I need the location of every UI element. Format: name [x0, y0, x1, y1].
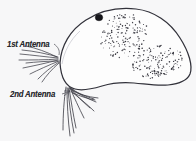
stipple-dot	[158, 55, 159, 56]
stipple-dot	[119, 14, 120, 15]
stipple-dot	[119, 45, 120, 46]
stipple-dot	[121, 50, 122, 51]
stipple-dot	[141, 43, 142, 44]
stipple-dot	[107, 23, 108, 24]
stipple-dot	[126, 30, 127, 31]
stipple-dot	[112, 25, 113, 26]
stipple-dot	[121, 32, 122, 33]
stipple-dot	[143, 54, 144, 55]
stipple-dot	[127, 28, 128, 29]
stipple-dot	[114, 27, 115, 28]
stipple-dot	[160, 74, 161, 75]
stipple-dot	[139, 60, 141, 62]
stipple-dot	[169, 48, 171, 50]
stipple-dot	[139, 69, 140, 70]
stipple-dot	[150, 65, 151, 66]
stipple-dot	[114, 46, 115, 47]
stipple-dot	[129, 42, 130, 43]
stipple-dot	[138, 55, 139, 56]
stipple-dot	[127, 41, 128, 42]
stipple-dot	[142, 31, 143, 32]
stipple-dot	[158, 67, 160, 69]
stipple-dot	[112, 55, 114, 57]
stipple-dot	[114, 19, 115, 20]
stipple-dot	[178, 59, 179, 60]
stipple-dot	[124, 44, 126, 46]
stipple-dot	[173, 66, 175, 68]
stipple-dot	[160, 64, 161, 65]
stipple-dot	[166, 63, 168, 65]
stipple-dot	[147, 50, 148, 51]
stipple-dot	[150, 72, 151, 73]
stipple-dot	[125, 46, 126, 47]
stipple-dot	[166, 56, 167, 57]
stipple-dot	[109, 20, 110, 21]
stipple-dot	[138, 52, 139, 53]
stipple-dot	[161, 59, 163, 61]
stipple-dot	[125, 32, 126, 33]
stipple-dot	[107, 36, 108, 37]
stipple-dot	[163, 73, 164, 74]
stipple-dot	[139, 57, 140, 58]
stipple-dot	[120, 24, 122, 26]
carapace-outline-group	[60, 8, 191, 89]
second-antenna-setae	[63, 87, 98, 136]
stipple-dot	[173, 54, 174, 55]
stipple-dot	[118, 18, 119, 19]
stipple-dot	[137, 68, 138, 69]
stipple-dot	[138, 41, 139, 42]
stipple-dot	[125, 27, 127, 29]
stipple-dot	[152, 77, 154, 79]
stipple-dot	[166, 72, 167, 73]
stipple-dot	[128, 56, 129, 57]
stipple-dot	[132, 43, 133, 44]
stipple-dot	[140, 69, 141, 70]
stipple-dot	[162, 68, 163, 69]
stipple-dot	[150, 49, 151, 50]
stipple-dot	[160, 72, 161, 73]
stipple-dot	[114, 18, 115, 19]
stipple-dot	[134, 33, 135, 34]
stipple-dot	[110, 43, 111, 44]
stipple-dot	[123, 49, 125, 51]
label-second-antenna: 2nd Antenna	[10, 90, 55, 99]
stipple-dot	[126, 23, 127, 24]
stipple-dot	[154, 71, 155, 72]
stipple-dot	[142, 29, 143, 30]
stipple-dot	[174, 69, 175, 70]
stipple-dot	[147, 74, 148, 75]
stipple-dot	[143, 50, 145, 52]
stipple-dot	[141, 47, 143, 49]
first-antenna-setae	[19, 46, 59, 82]
stipple-dot	[116, 23, 117, 24]
stipple-dot	[140, 28, 141, 29]
stipple-dot	[159, 74, 160, 75]
stipple-dot	[152, 73, 153, 74]
stipple-dot	[138, 40, 139, 41]
stipple-dot	[109, 38, 110, 39]
stipple-dot	[136, 61, 138, 63]
stipple-dot	[111, 45, 112, 46]
stipple-dot	[161, 70, 162, 71]
stipple-dot	[166, 70, 167, 71]
stipple-dot	[135, 67, 136, 68]
stipple-dot	[175, 63, 176, 64]
stipple-dot	[133, 70, 134, 71]
stipple-dot	[133, 33, 134, 34]
stipple-dot	[162, 58, 163, 59]
stipple-dot	[157, 64, 158, 65]
stipple-dot	[125, 38, 126, 39]
stipple-dot	[134, 55, 135, 56]
stipple-dot	[100, 43, 102, 45]
stipple-dot	[153, 48, 154, 49]
stipple-dot	[134, 17, 135, 18]
stipple-dot	[129, 46, 130, 47]
stipple-dot	[118, 43, 119, 44]
stipple-dot	[116, 41, 117, 42]
stipple-dot	[168, 54, 169, 55]
stipple-dot	[145, 30, 146, 31]
stipple-dot	[165, 70, 166, 71]
stipple-dot	[172, 67, 173, 68]
stipple-dot	[119, 57, 120, 58]
stipple-dot	[140, 64, 141, 65]
